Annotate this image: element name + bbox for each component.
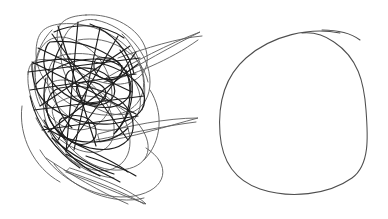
circle-stroke (220, 30, 368, 194)
single-circle-drawing (206, 0, 388, 219)
scribble-svg (0, 0, 206, 219)
circle-svg (206, 0, 388, 219)
sketch-canvas (0, 0, 388, 219)
dense-scribble-drawing (0, 0, 206, 219)
